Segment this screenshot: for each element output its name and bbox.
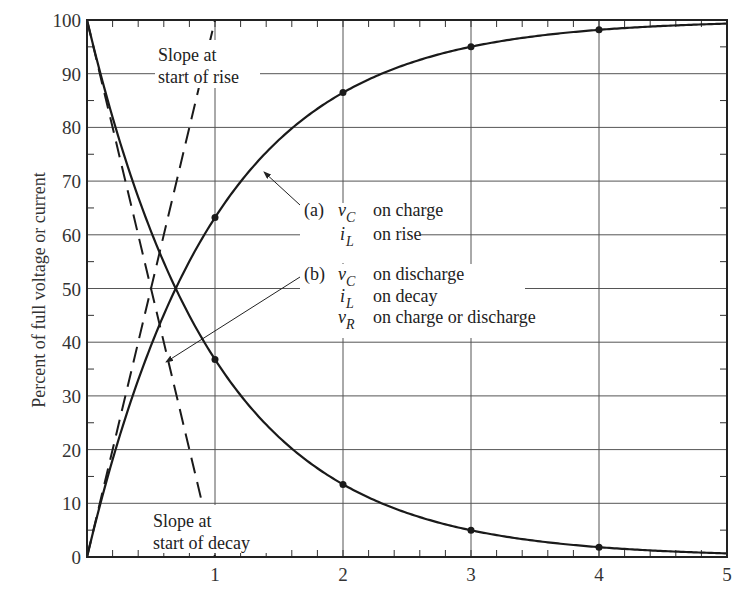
annotation-a-sub1: C — [346, 210, 356, 225]
decay-data-point — [212, 356, 219, 363]
annotation-a-tag: (a) — [304, 200, 324, 221]
annotation-b-text1: on discharge — [373, 264, 464, 284]
annotation-b-sub2: L — [345, 296, 354, 311]
decay-data-point — [468, 527, 475, 534]
x-tick-label: 3 — [466, 564, 476, 585]
annotation-a-sub2: L — [345, 234, 354, 249]
slope-decay-label-line1: Slope at — [153, 511, 212, 531]
decay-data-point — [596, 544, 603, 551]
decay-data-point — [340, 481, 347, 488]
slope-rise-label-line1: Slope at — [158, 45, 217, 65]
annotation-b-sym1: v — [338, 264, 346, 284]
x-tick-label: 1 — [210, 564, 220, 585]
annotation-b-tag: (b) — [304, 264, 325, 285]
rise-data-point — [212, 214, 219, 221]
y-tick-label: 30 — [62, 386, 81, 407]
y-tick-label: 90 — [62, 64, 81, 85]
x-tick-label: 2 — [338, 564, 348, 585]
y-tick-label: 100 — [53, 10, 82, 31]
y-axis-title: Percent of full voltage or current — [29, 172, 49, 407]
y-tick-labels: 0102030405060708090100 — [53, 10, 82, 568]
rise-data-point — [468, 43, 475, 50]
y-tick-label: 80 — [62, 117, 81, 138]
annotation-b-sub1: C — [346, 274, 356, 289]
y-tick-label: 10 — [62, 493, 81, 514]
y-tick-label: 50 — [62, 279, 81, 300]
annotation-b-sym3: v — [338, 307, 346, 327]
y-tick-label: 40 — [62, 332, 81, 353]
y-tick-label: 70 — [62, 171, 81, 192]
rise-data-point — [596, 26, 603, 33]
annotation-a-text1: on charge — [373, 200, 443, 220]
x-tick-label: 4 — [594, 564, 604, 585]
x-tick-labels: 12345 — [210, 564, 732, 585]
annotation-a-sym1: v — [338, 200, 346, 220]
slope-rise-label-line2: start of rise — [158, 67, 239, 87]
slope-decay-label-line2: start of decay — [153, 533, 250, 553]
annotation-b-arrow — [166, 277, 300, 362]
annotation-a-sym2: i — [340, 224, 345, 244]
x-tick-label: 5 — [722, 564, 732, 585]
y-tick-label: 0 — [72, 547, 82, 568]
y-tick-label: 60 — [62, 225, 81, 246]
rc-time-constant-chart: 0102030405060708090100 12345 Percent of … — [0, 0, 738, 603]
annotation-b-text3: on charge or discharge — [373, 307, 536, 327]
y-tick-label: 20 — [62, 440, 81, 461]
annotation-a-text2: on rise — [373, 224, 422, 244]
annotation-b-text2: on decay — [373, 286, 437, 306]
annotation-b-sub3: R — [345, 317, 355, 332]
rise-data-point — [340, 89, 347, 96]
annotation-b-sym2: i — [340, 286, 345, 306]
annotation-a-arrow — [264, 172, 300, 205]
